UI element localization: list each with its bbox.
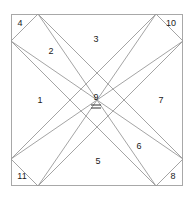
region-label-1: 1 <box>37 95 42 105</box>
geometry-diagram-canvas: 1 2 3 4 5 6 7 8 9 10 11 <box>0 0 196 200</box>
region-label-2: 2 <box>48 46 53 56</box>
region-label-8: 8 <box>170 171 175 181</box>
region-label-9: 9 <box>93 92 98 102</box>
region-label-3: 3 <box>93 34 98 44</box>
region-label-5: 5 <box>95 156 100 166</box>
diagram-figure: 1 2 3 4 5 6 7 8 9 10 11 <box>0 0 196 200</box>
region-label-7: 7 <box>158 95 163 105</box>
region-label-4: 4 <box>17 18 22 28</box>
region-label-10: 10 <box>166 18 176 28</box>
region-label-6: 6 <box>136 141 141 151</box>
region-label-11: 11 <box>17 171 26 181</box>
